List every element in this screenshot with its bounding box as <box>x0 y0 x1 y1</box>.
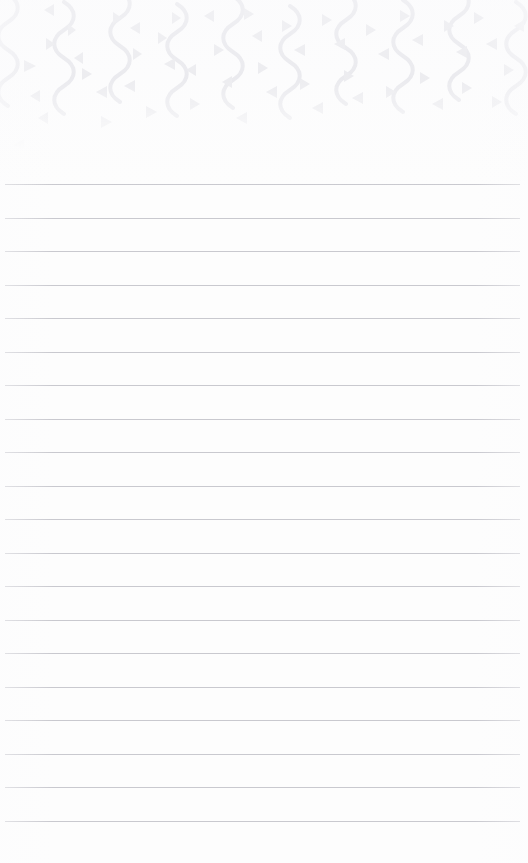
rule-line <box>5 218 520 219</box>
rule-line <box>5 184 520 185</box>
wavy-streamer-icon <box>54 2 74 114</box>
confetti-triangle-icon <box>244 8 254 20</box>
confetti-triangle-icon <box>378 48 389 60</box>
rule-line <box>5 620 520 621</box>
rule-line <box>5 419 520 420</box>
confetti-triangle-icon <box>486 38 497 50</box>
rule-line <box>5 653 520 654</box>
wavy-streamer-icon <box>223 0 243 108</box>
confetti-triangle-icon <box>236 112 247 124</box>
ruled-lines <box>0 0 528 863</box>
confetti-triangle-icon <box>222 76 232 88</box>
rule-line <box>5 385 520 386</box>
confetti-triangle-icon <box>504 64 514 76</box>
confetti-triangle-icon <box>322 14 332 26</box>
confetti-triangle-icon <box>113 12 122 24</box>
wavy-streamer-icon <box>167 4 187 116</box>
confetti-triangle-icon <box>294 44 305 56</box>
rule-line <box>5 720 520 721</box>
confetti-triangle-group <box>13 4 524 150</box>
wavy-streamer-icon <box>280 6 300 118</box>
confetti-triangle-icon <box>492 96 502 108</box>
confetti-triangle-icon <box>74 52 83 64</box>
confetti-triangle-icon <box>24 60 36 72</box>
confetti-triangle-icon <box>124 80 135 92</box>
rule-line <box>5 318 520 319</box>
confetti-triangle-icon <box>133 48 142 60</box>
paper-texture-overlay <box>0 0 528 863</box>
confetti-triangle-icon <box>420 72 430 84</box>
confetti-group <box>0 0 526 150</box>
confetti-triangle-icon <box>82 68 92 80</box>
wavy-streamer-icon <box>0 0 18 106</box>
notepad-page <box>0 0 528 863</box>
confetti-streamer-header <box>0 0 528 150</box>
confetti-triangle-icon <box>44 4 54 16</box>
confetti-triangle-icon <box>252 30 262 42</box>
rule-line <box>5 754 520 755</box>
confetti-triangle-icon <box>96 86 107 98</box>
rule-line <box>5 787 520 788</box>
confetti-triangle-icon <box>204 10 214 22</box>
confetti-triangle-icon <box>186 64 196 76</box>
confetti-triangle-icon <box>164 58 175 70</box>
confetti-triangle-icon <box>514 20 524 32</box>
confetti-triangle-icon <box>300 78 310 90</box>
confetti-triangle-icon <box>214 44 224 56</box>
confetti-triangle-icon <box>266 86 277 98</box>
rule-line <box>5 486 520 487</box>
confetti-triangle-icon <box>282 20 292 32</box>
confetti-triangle-icon <box>456 46 467 58</box>
wavy-streamer-icon <box>110 0 130 102</box>
rule-line <box>5 352 520 353</box>
confetti-triangle-icon <box>190 98 200 110</box>
confetti-triangle-icon <box>444 20 454 32</box>
confetti-triangle-icon <box>30 90 40 102</box>
confetti-triangle-icon <box>366 24 376 36</box>
rule-line <box>5 285 520 286</box>
wavy-streamer-icon <box>506 2 526 114</box>
confetti-triangle-icon <box>334 38 345 50</box>
confetti-triangle-icon <box>432 98 443 110</box>
confetti-triangle-icon <box>13 139 24 150</box>
rule-line <box>5 251 520 252</box>
confetti-triangle-icon <box>462 82 472 94</box>
rule-line <box>5 586 520 587</box>
wavy-streamer-icon <box>449 0 469 100</box>
confetti-triangle-icon <box>312 102 323 114</box>
confetti-triangle-icon <box>172 12 181 24</box>
rule-line <box>5 553 520 554</box>
confetti-triangle-icon <box>38 112 48 124</box>
wavy-streamer-icon <box>336 0 356 104</box>
confetti-triangle-icon <box>68 24 76 36</box>
confetti-triangle-icon <box>46 38 55 50</box>
confetti-triangle-icon <box>474 12 484 24</box>
confetti-triangle-icon <box>130 22 140 34</box>
confetti-triangle-icon <box>400 10 410 22</box>
confetti-triangle-icon <box>258 62 268 74</box>
confetti-triangle-icon <box>158 32 167 44</box>
rule-line <box>5 821 520 822</box>
rule-line <box>5 452 520 453</box>
wavy-streamer-icon <box>393 0 413 112</box>
wavy-streamer-group <box>0 0 526 118</box>
confetti-triangle-icon <box>146 106 157 118</box>
confetti-triangle-icon <box>101 116 112 128</box>
confetti-triangle-icon <box>344 70 354 82</box>
confetti-triangle-icon <box>352 92 363 104</box>
rule-line <box>5 687 520 688</box>
confetti-triangle-icon <box>412 34 423 46</box>
rule-line <box>5 519 520 520</box>
confetti-triangle-icon <box>386 86 396 98</box>
